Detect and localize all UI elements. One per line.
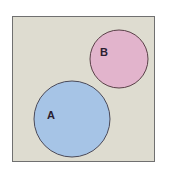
- set-a-circle: [34, 81, 110, 157]
- venn-diagram: A B: [0, 0, 171, 170]
- set-a-label: A: [47, 109, 55, 121]
- set-b-label: B: [100, 46, 108, 58]
- set-b-circle: [90, 30, 148, 88]
